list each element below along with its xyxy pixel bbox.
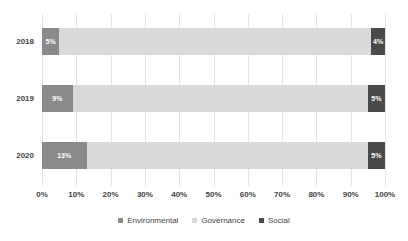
x-axis-tick-90%: 90% (343, 190, 359, 199)
legend-item-social[interactable]: Social (259, 216, 290, 225)
x-axis-tick-0%: 0% (36, 190, 48, 199)
bar-segment-governance-2018[interactable]: 91% (59, 28, 371, 55)
legend-item-environmental[interactable]: Environmental (118, 216, 178, 225)
bar-segment-social-2018[interactable]: 4% (371, 28, 385, 55)
bar-segment-environmental-2020[interactable]: 13% (42, 142, 87, 169)
legend-label-governance: Governance (201, 216, 245, 225)
bar-segment-environmental-2018[interactable]: 5% (42, 28, 59, 55)
x-axis-tick-40%: 40% (171, 190, 187, 199)
bar-row-2018[interactable]: 5% 91% 4% (42, 28, 385, 55)
x-axis-tick-60%: 60% (240, 190, 256, 199)
stacked-bar-chart: 5% 91% 4% 9% 86% 5% (0, 0, 408, 241)
x-axis-labels: 0%10%20%30%40%50%60%70%80%90%100% (42, 190, 385, 204)
legend-swatch-icon-social (259, 218, 264, 223)
x-axis-tick-20%: 20% (103, 190, 119, 199)
y-axis-label-2019: 2019 (16, 85, 34, 112)
y-axis-labels: 2018 2019 2020 (0, 14, 38, 186)
x-axis-tick-100%: 100% (375, 190, 395, 199)
bar-row-2019[interactable]: 9% 86% 5% (42, 85, 385, 112)
bar-label-environmental-2018: 5% (45, 38, 55, 45)
bar-label-social-2019: 5% (371, 95, 381, 102)
x-axis-tick-80%: 80% (308, 190, 324, 199)
x-axis-tick-50%: 50% (205, 190, 221, 199)
legend-swatch-icon-environmental (118, 218, 123, 223)
bar-label-social-2020: 5% (371, 152, 381, 159)
chart-legend: EnvironmentalGovernanceSocial (0, 216, 408, 225)
legend-label-social: Social (268, 216, 290, 225)
legend-label-environmental: Environmental (127, 216, 178, 225)
bar-label-environmental-2019: 9% (52, 95, 62, 102)
plot-area: 5% 91% 4% 9% 86% 5% (42, 14, 385, 186)
bar-label-environmental-2020: 13% (57, 152, 71, 159)
x-axis-tick-70%: 70% (274, 190, 290, 199)
bar-row-2020[interactable]: 13% 82% 5% (42, 142, 385, 169)
y-axis-label-2020: 2020 (16, 142, 34, 169)
bar-rows: 5% 91% 4% 9% 86% 5% (42, 14, 385, 186)
bar-label-social-2018: 4% (373, 38, 383, 45)
bar-segment-governance-2019[interactable]: 86% (73, 85, 368, 112)
bar-segment-social-2019[interactable]: 5% (368, 85, 385, 112)
bar-segment-environmental-2019[interactable]: 9% (42, 85, 73, 112)
bar-segment-social-2020[interactable]: 5% (368, 142, 385, 169)
x-axis-tick-30%: 30% (137, 190, 153, 199)
x-axis-tick-10%: 10% (68, 190, 84, 199)
legend-swatch-icon-governance (192, 218, 197, 223)
gridline-100% (385, 14, 386, 186)
y-axis-label-2018: 2018 (16, 28, 34, 55)
legend-item-governance[interactable]: Governance (192, 216, 245, 225)
bar-segment-governance-2020[interactable]: 82% (87, 142, 368, 169)
